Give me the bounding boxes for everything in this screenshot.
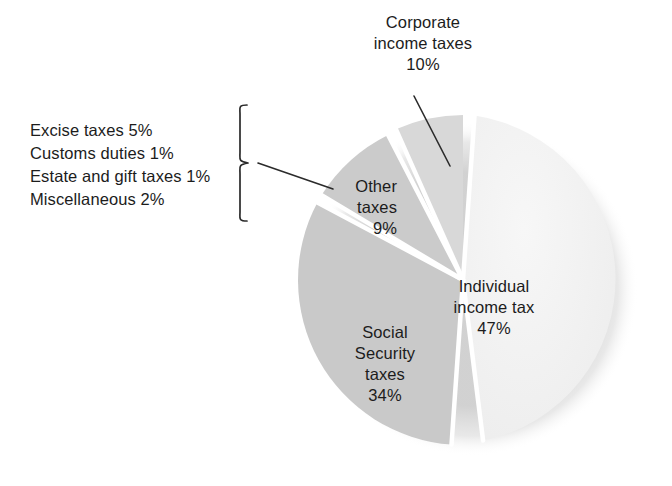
other-taxes-breakdown-list: Excise taxes 5% Customs duties 1% Estate…	[30, 119, 210, 211]
slice-label-line: income tax	[454, 297, 535, 318]
slice-label-social-security-taxes: Social Security taxes 34%	[355, 322, 415, 406]
slice-label-line: Security	[355, 343, 415, 364]
pie-chart-graphic	[0, 0, 672, 486]
slice-label-line: Other	[355, 176, 397, 197]
breakdown-curly-brace	[240, 105, 248, 221]
slice-label-line: Social	[355, 322, 415, 343]
breakdown-item: Miscellaneous 2%	[30, 188, 210, 211]
pie-chart-figure: Corporate income taxes 10% Other taxes 9…	[0, 0, 672, 486]
slice-value: 47%	[454, 318, 535, 339]
breakdown-item: Estate and gift taxes 1%	[30, 165, 210, 188]
slice-label-other-taxes: Other taxes 9%	[355, 176, 397, 239]
slice-value: 34%	[355, 385, 415, 406]
slice-label-line: Corporate	[374, 12, 472, 33]
slice-label-line: taxes	[355, 364, 415, 385]
slice-label-corporate-income-taxes: Corporate income taxes 10%	[374, 12, 472, 75]
leader-line-other-taxes	[258, 163, 333, 189]
breakdown-item: Customs duties 1%	[30, 142, 210, 165]
breakdown-item: Excise taxes 5%	[30, 119, 210, 142]
slice-value: 10%	[374, 54, 472, 75]
slice-label-line: Individual	[454, 276, 535, 297]
slice-label-line: taxes	[355, 197, 397, 218]
slice-value: 9%	[355, 218, 397, 239]
slice-label-individual-income-tax: Individual income tax 47%	[454, 276, 535, 339]
slice-label-line: income taxes	[374, 33, 472, 54]
